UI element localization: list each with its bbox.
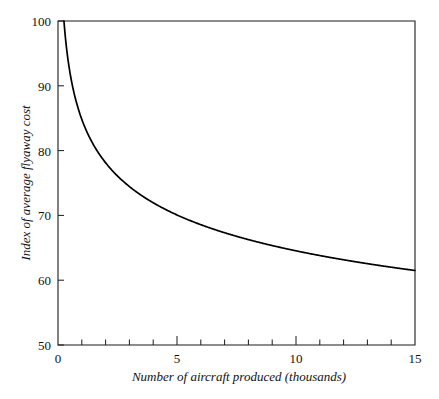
chart-background [0,0,439,399]
y-tick-label-70: 70 [38,208,51,223]
y-tick-label-60: 60 [38,273,51,288]
x-tick-label-0: 0 [55,351,62,366]
y-tick-label-90: 90 [38,79,51,94]
y-axis-title: Index of average flyaway cost [18,105,33,262]
y-tick-label-100: 100 [32,14,52,29]
x-tick-label-15: 15 [409,351,422,366]
flyaway-cost-chart: 100 90 80 70 60 50 0 5 10 15 Index of av… [0,0,439,399]
x-tick-label-10: 10 [290,351,303,366]
y-tick-label-80: 80 [38,144,51,159]
chart-page: 100 90 80 70 60 50 0 5 10 15 Index of av… [0,0,439,399]
y-tick-label-50: 50 [38,338,51,353]
x-tick-label-5: 5 [174,351,181,366]
x-axis-title: Number of aircraft produced (thousands) [131,369,346,384]
